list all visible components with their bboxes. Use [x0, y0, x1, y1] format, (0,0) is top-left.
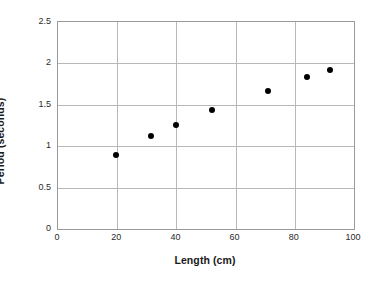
x-tick-label: 60	[215, 232, 255, 242]
data-point	[265, 88, 271, 94]
data-point	[304, 74, 310, 80]
x-tick-label: 80	[274, 232, 314, 242]
gridline-horizontal	[58, 105, 354, 106]
data-point	[209, 107, 215, 113]
x-tick-label: 100	[333, 232, 373, 242]
gridline-horizontal	[58, 188, 354, 189]
gridline-horizontal	[58, 146, 354, 147]
y-tick-label: 2	[11, 57, 51, 67]
data-point	[148, 133, 154, 139]
y-axis-tick-labels: 00.511.522.5	[7, 21, 51, 228]
x-tick-label: 0	[37, 232, 77, 242]
y-tick-label: 1	[11, 140, 51, 150]
gridline-vertical	[117, 22, 118, 229]
y-tick-label: 1.5	[11, 99, 51, 109]
y-tick-label: 2.5	[11, 16, 51, 26]
plot-area	[57, 21, 355, 230]
y-tick-label: 0.5	[11, 182, 51, 192]
x-tick-label: 20	[96, 232, 136, 242]
x-axis-tick-labels: 020406080100	[57, 232, 353, 246]
x-axis-title: Length (cm)	[57, 254, 353, 266]
data-point	[327, 67, 333, 73]
data-point	[173, 122, 179, 128]
gridline-vertical	[236, 22, 237, 229]
scatter-chart-figure: Period (seconds) 00.511.522.5 0204060801…	[0, 0, 391, 282]
gridline-horizontal	[58, 63, 354, 64]
x-tick-label: 40	[155, 232, 195, 242]
gridline-vertical	[295, 22, 296, 229]
